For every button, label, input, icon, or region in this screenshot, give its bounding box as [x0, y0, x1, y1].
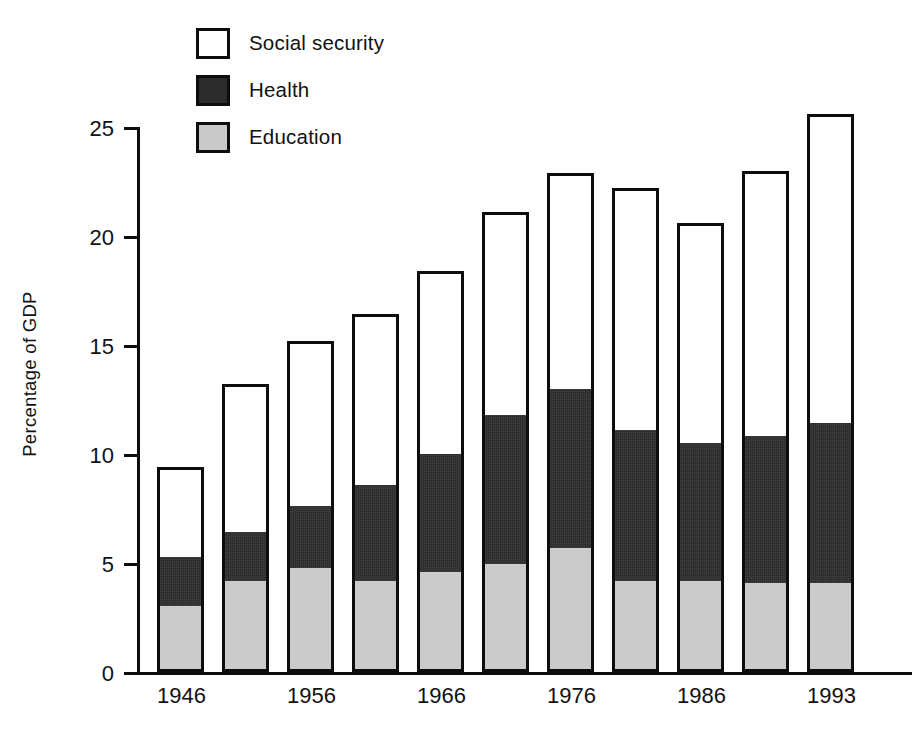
bar-1971: [482, 212, 529, 672]
y-axis-tick: 10: [124, 454, 137, 457]
bar-segment-social-security-1956: [290, 344, 331, 507]
plot-area: 2520151050 194619561966197619861993: [137, 113, 912, 675]
bar-segment-social-security-1993: [810, 117, 851, 423]
bar-segment-social-security-1966: [420, 274, 461, 454]
legend-label-social-security: Social security: [249, 33, 384, 54]
y-axis-tick-label: 5: [102, 553, 114, 575]
bar-segment-social-security-1976: [550, 176, 591, 389]
y-axis-tick: 0: [124, 672, 137, 675]
y-axis-tick: 25: [124, 127, 137, 130]
bar-segment-education-1946: [160, 606, 201, 669]
bar-segment-social-security-1946: [160, 470, 201, 557]
y-axis-tick-label: 15: [90, 335, 114, 357]
legend-swatch-health: [196, 75, 230, 106]
legend-item-health: Health: [196, 74, 384, 106]
bar-segment-health-1981: [615, 430, 656, 581]
bar-segment-health-1946: [160, 557, 201, 606]
bar-segment-health-1956: [290, 506, 331, 568]
y-axis-tick: 5: [124, 563, 137, 566]
bar-1976: [547, 173, 594, 672]
y-axis-tick: 20: [124, 236, 137, 239]
bar-segment-education-1966: [420, 572, 461, 669]
bar-1951: [222, 384, 269, 672]
bar-segment-education-1991: [745, 583, 786, 669]
y-axis-tick-label: 10: [90, 444, 114, 466]
bar-segment-social-security-1991: [745, 174, 786, 437]
bar-segment-health-1976: [550, 389, 591, 548]
bar-segment-education-1951: [225, 581, 266, 669]
y-axis-tick-label: 0: [102, 662, 114, 684]
bar-segment-health-1961: [355, 485, 396, 581]
bar-segment-education-1981: [615, 581, 656, 669]
bar-1966: [417, 271, 464, 672]
bar-segment-education-1961: [355, 581, 396, 669]
legend-label-health: Health: [249, 80, 309, 101]
legend-item-social-security: Social security: [196, 27, 384, 59]
bar-segment-health-1966: [420, 454, 461, 572]
bar-segment-social-security-1951: [225, 387, 266, 532]
bar-group: [137, 113, 912, 675]
x-axis-tick-label: 1993: [807, 685, 854, 707]
bar-1991: [742, 171, 789, 672]
bar-1986: [677, 223, 724, 672]
bar-segment-social-security-1981: [615, 191, 656, 430]
y-axis-tick-label: 20: [90, 226, 114, 248]
bar-1961: [352, 314, 399, 672]
bar-segment-health-1993: [810, 423, 851, 583]
x-axis-tick-label: 1966: [417, 685, 464, 707]
bar-1956: [287, 341, 334, 672]
bar-segment-health-1991: [745, 436, 786, 582]
bar-segment-education-1986: [680, 581, 721, 669]
bar-1981: [612, 188, 659, 672]
bar-segment-health-1951: [225, 532, 266, 581]
bar-segment-social-security-1986: [680, 226, 721, 443]
bar-segment-health-1971: [485, 415, 526, 563]
bar-1946: [157, 467, 204, 672]
bar-1993: [807, 114, 854, 672]
bar-segment-education-1956: [290, 568, 331, 669]
x-axis-tick-label: 1986: [677, 685, 724, 707]
chart-figure: Social security Health Education Percent…: [0, 0, 923, 747]
bar-segment-social-security-1971: [485, 215, 526, 415]
x-axis-tick-labels: 194619561966197619861993: [137, 685, 912, 725]
legend-swatch-social-security: [196, 28, 230, 59]
y-axis-tick-label: 25: [90, 117, 114, 139]
bar-segment-education-1993: [810, 583, 851, 669]
bar-segment-social-security-1961: [355, 317, 396, 484]
bar-segment-education-1971: [485, 564, 526, 669]
y-axis-title: Percentage of GDP: [0, 0, 60, 747]
x-axis-tick-label: 1976: [547, 685, 594, 707]
y-axis-title-text: Percentage of GDP: [19, 291, 41, 457]
bar-segment-education-1976: [550, 548, 591, 669]
x-axis-tick-label: 1956: [287, 685, 334, 707]
bar-segment-health-1986: [680, 443, 721, 581]
y-axis-tick: 15: [124, 345, 137, 348]
x-axis-tick-label: 1946: [157, 685, 204, 707]
